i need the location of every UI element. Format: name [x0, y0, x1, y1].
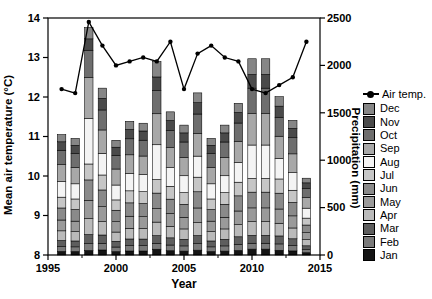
bar-segment-2014-jun [302, 225, 310, 233]
air-temp-marker-icon [363, 93, 379, 95]
bar-segment-2014-apr [302, 240, 310, 246]
bar-2004 [166, 112, 174, 255]
bar-segment-2003-jan [153, 249, 161, 255]
bar-segment-2005-sep [180, 158, 188, 176]
bar-segment-2011-jun [261, 192, 269, 208]
bar-segment-2012-aug [275, 158, 283, 179]
bar-segment-2004-dec [166, 112, 174, 121]
bar-segment-2009-jun [234, 196, 242, 211]
air-temp-markers [59, 20, 308, 96]
legend-item-feb: Feb [363, 235, 426, 248]
bar-segment-2013-sep [289, 154, 297, 173]
bar-2014 [302, 178, 310, 255]
bar-segment-2001-aug [125, 173, 133, 190]
bar-segment-1998-sep [85, 78, 93, 119]
bar-segment-2004-nov [166, 120, 174, 130]
bar-segment-1998-jul [85, 164, 93, 180]
bar-segment-2003-jul [153, 180, 161, 194]
bar-segment-1996-oct [57, 150, 65, 164]
bar-2006 [193, 93, 201, 255]
bar-segment-2004-jun [166, 199, 174, 213]
bar-segment-2002-aug [139, 175, 147, 192]
bar-segment-2001-jul [125, 191, 133, 203]
bar-2011 [261, 59, 269, 255]
chart-legend: Air temp. DecNovOctSepAugJulJunMayAprMar… [363, 87, 426, 262]
left-tick-label: 12 [28, 91, 40, 103]
bar-segment-1998-apr [85, 219, 93, 235]
bar-segment-2002-mar [139, 239, 147, 246]
bar-segment-1999-aug [98, 153, 106, 175]
bar-segment-2001-sep [125, 155, 133, 174]
legend-label: Air temp. [382, 89, 426, 100]
legend-item-jan: Jan [363, 249, 426, 262]
legend-label: Sep [380, 143, 400, 154]
bar-segment-2007-may [207, 221, 215, 232]
bar-segment-1996-nov [57, 142, 65, 150]
bar-2009 [234, 103, 242, 255]
bar-segment-2009-jul [234, 182, 242, 196]
legend-swatch-apr [363, 209, 375, 221]
bar-segment-1996-jun [57, 208, 65, 220]
bar-segment-2007-mar [207, 241, 215, 247]
air-temp-marker [291, 75, 295, 79]
bar-segment-2002-feb [139, 246, 147, 251]
bar-segment-2002-jun [139, 204, 147, 217]
bar-segment-2009-may [234, 211, 242, 225]
legend-swatch-dec [363, 103, 375, 115]
bar-segment-2013-mar [289, 239, 297, 246]
bar-segment-2003-apr [153, 222, 161, 236]
legend-label: Dec [380, 103, 400, 114]
bar-segment-1997-apr [71, 232, 79, 241]
bar-segment-2002-jul [139, 192, 147, 204]
air-temp-marker [223, 55, 227, 59]
bar-segment-2013-jan [289, 251, 297, 255]
bar-segment-2000-aug [112, 185, 120, 200]
legend-swatch-oct [363, 129, 375, 141]
bar-segment-1997-aug [71, 184, 79, 199]
air-temp-marker [59, 87, 63, 91]
bar-segment-2000-mar [112, 241, 120, 247]
bar-segment-2010-apr [248, 222, 256, 236]
bar-segment-2001-mar [125, 239, 133, 246]
bar-segment-2010-dec [248, 59, 256, 75]
bar-segment-1998-oct [85, 50, 93, 77]
bar-segment-2011-jul [261, 178, 269, 192]
bar-segment-2005-may [180, 217, 188, 229]
legend-label: Oct [380, 130, 397, 141]
bar-segment-2002-nov [139, 131, 147, 140]
bar-segment-1998-mar [85, 235, 93, 244]
bar-segment-2014-may [302, 233, 310, 240]
bar-segment-2004-sep [166, 148, 174, 168]
precip-bars [57, 27, 310, 255]
x-tick-label: 2010 [240, 262, 264, 274]
bar-segment-2009-feb [234, 244, 242, 250]
bar-segment-2007-feb [207, 247, 215, 252]
air-temp-marker [277, 83, 281, 87]
bar-segment-1998-jun [85, 180, 93, 200]
bar-segment-2013-nov [289, 128, 297, 137]
bar-segment-2011-may [261, 208, 269, 222]
bar-segment-2003-oct [153, 91, 161, 114]
bar-segment-2014-sep [302, 197, 310, 208]
bar-segment-2000-feb [112, 247, 120, 252]
legend-label: Mar [380, 223, 399, 234]
bar-segment-1997-jul [71, 199, 79, 210]
bar-segment-2001-feb [125, 246, 133, 251]
right-tick-label: 1500 [327, 107, 351, 119]
bar-segment-1997-jun [71, 210, 79, 222]
bar-segment-2007-apr [207, 232, 215, 241]
bar-segment-2011-feb [261, 243, 269, 249]
bar-segment-1999-dec [98, 88, 106, 98]
bar-segment-2008-dec [221, 125, 229, 133]
bar-segment-1997-oct [71, 153, 79, 167]
bar-segment-2010-sep [248, 114, 256, 145]
bar-segment-2001-nov [125, 129, 133, 138]
bar-segment-2008-sep [221, 158, 229, 176]
bar-segment-1996-apr [57, 231, 65, 241]
bar-segment-2000-jul [112, 200, 120, 210]
bar-2013 [289, 120, 297, 255]
bar-segment-1999-oct [98, 110, 106, 130]
bar-segment-2013-apr [289, 228, 297, 239]
bar-segment-1997-sep [71, 168, 79, 184]
legend-item-air-temp: Air temp. [363, 87, 426, 101]
